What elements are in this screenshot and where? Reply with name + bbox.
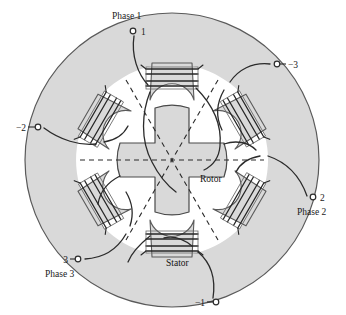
terminal-minus-1-marker[interactable]	[213, 299, 219, 305]
terminal-1-label: 1	[141, 27, 146, 37]
phase-2-label: Phase 2	[297, 207, 327, 217]
phase-3-label: Phase 3	[45, 269, 75, 279]
terminal-minus-1-label: −1	[195, 298, 205, 308]
terminal-minus-3-label: −3	[288, 60, 298, 70]
terminal-3-marker[interactable]	[75, 256, 81, 262]
terminal-1-marker[interactable]	[130, 28, 136, 34]
terminal-2-label: 2	[320, 193, 325, 203]
terminal-minus-2-marker[interactable]	[35, 124, 41, 130]
rotor-label: Rotor	[200, 174, 222, 184]
terminal-minus-2-label: −2	[16, 123, 26, 133]
terminal-minus-3-marker[interactable]	[274, 61, 280, 67]
stator-label: Stator	[166, 258, 190, 268]
phase-1-label: Phase 1	[112, 11, 142, 21]
terminal-3-label: 3	[63, 255, 68, 265]
terminal-2-marker[interactable]	[310, 194, 316, 200]
motor-cross-section-diagram: Phase 1 1 −3 −2 2 Phase 2 3 Phase 3 −1 R…	[0, 0, 346, 315]
